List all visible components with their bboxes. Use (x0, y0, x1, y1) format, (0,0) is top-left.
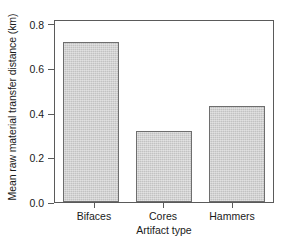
plot-area (54, 20, 274, 203)
y-axis-label: Mean raw material transfer distance (km) (4, 2, 20, 212)
bar-chart-figure: Mean raw material transfer distance (km)… (0, 0, 289, 243)
y-tick-label-4: 0.8 (18, 20, 44, 30)
x-tick-label-bifaces: Bifaces (59, 210, 129, 222)
y-tick-label-2: 0.4 (18, 109, 44, 119)
x-axis-label: Artifact type (54, 224, 274, 236)
y-tick-label-1: 0.2 (18, 153, 44, 163)
bar-bifaces[interactable] (63, 42, 119, 202)
x-tick-mark-0 (94, 203, 95, 208)
x-tick-mark-1 (163, 203, 164, 208)
y-tick-mark-0 (48, 203, 54, 204)
x-tick-label-hammers: Hammers (197, 210, 267, 222)
bar-hammers[interactable] (209, 106, 265, 202)
x-tick-label-cores: Cores (128, 210, 198, 222)
bar-cores[interactable] (136, 131, 192, 202)
y-tick-label-3: 0.6 (18, 64, 44, 74)
y-tick-label-0: 0.0 (18, 198, 44, 208)
x-tick-mark-2 (232, 203, 233, 208)
